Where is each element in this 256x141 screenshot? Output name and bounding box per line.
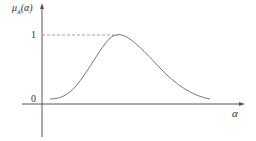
y-tick-1: 1	[31, 30, 36, 40]
chart-canvas	[0, 0, 256, 141]
y-axis-arrow-icon	[40, 3, 44, 9]
membership-curve	[50, 35, 210, 99]
y-tick-0: 0	[31, 94, 36, 104]
x-axis-label: α	[232, 108, 238, 119]
membership-function-chart: μA(α) 1 0 α	[0, 0, 256, 141]
y-axis-label: μA(α)	[12, 3, 33, 15]
x-axis-arrow-icon	[239, 102, 245, 106]
